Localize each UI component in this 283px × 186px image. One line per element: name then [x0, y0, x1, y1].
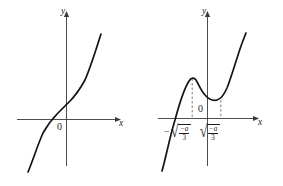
left-x-axis-label: x: [119, 119, 123, 129]
radical-group-right: √ −a 3: [199, 124, 220, 142]
minus-sign-glyph: −: [164, 127, 170, 137]
right-panel-group: [158, 11, 259, 171]
tick-label-left-critical-point: − √ −a 3: [164, 124, 191, 142]
tick-label-right-critical-point: √ −a 3: [199, 124, 220, 142]
radical-content-left: −a 3: [178, 124, 191, 142]
fraction-denominator: 3: [181, 135, 187, 143]
left-y-axis-label: y: [61, 7, 65, 17]
radical-sign-icon: √: [171, 123, 179, 141]
figure-vector-canvas: [0, 0, 283, 186]
right-x-axis-label: x: [258, 118, 262, 128]
radical-group-left: √ −a 3: [170, 124, 191, 142]
fraction-numerator: −a: [179, 126, 189, 134]
right-cubic-curve: [162, 33, 246, 171]
fraction-left: −a 3: [179, 126, 189, 143]
radical-content-right: −a 3: [207, 124, 220, 142]
fraction-denominator: 3: [210, 135, 216, 143]
fraction-right: −a 3: [208, 126, 218, 143]
left-cubic-curve: [28, 34, 101, 172]
fraction-numerator: −a: [208, 126, 218, 134]
math-figure-container: x y 0 x y 0 − √ −a 3 √ −a 3: [0, 0, 283, 186]
left-origin-label: 0: [57, 122, 62, 132]
radical-sign-icon: √: [200, 123, 208, 141]
right-y-axis-label: y: [202, 7, 206, 17]
left-panel-group: [17, 11, 121, 172]
right-origin-label: 0: [198, 104, 203, 114]
